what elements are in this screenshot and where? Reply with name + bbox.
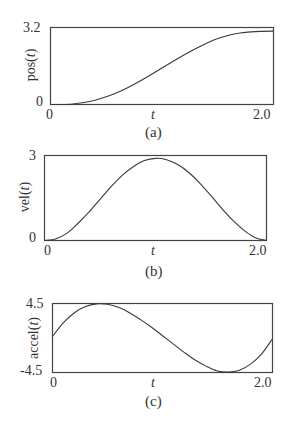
x-min-label-c: 0	[50, 376, 57, 390]
y-label-close: )	[26, 317, 41, 322]
y-min-label-a: 0	[36, 95, 43, 109]
y-label-var: t	[26, 322, 41, 326]
x-axis-label-b: t	[151, 244, 155, 258]
y-max-label-a: 3.2	[23, 21, 41, 35]
y-label-var: t	[23, 53, 38, 57]
y-label-var: t	[17, 187, 32, 191]
pos-curve	[51, 31, 274, 104]
x-min-label-a: 0	[46, 108, 53, 122]
caption-c: (c)	[145, 394, 162, 409]
y-label-close: )	[17, 182, 32, 187]
x-axis-label-a: t	[151, 108, 155, 122]
x-min-label-b: 0	[44, 244, 51, 258]
x-max-label-c: 2.0	[254, 376, 272, 390]
y-axis-label-b: vel(t)	[0, 190, 50, 204]
vel-curve	[45, 158, 267, 240]
y-axis-label-a: pos(t)	[6, 58, 56, 72]
caption-a: (a)	[145, 125, 162, 140]
x-axis-label-c: t	[151, 376, 155, 390]
y-axis-label-c: accel(t)	[4, 331, 64, 345]
y-label-close: )	[23, 49, 38, 54]
plot-frame-a	[51, 28, 274, 105]
caption-b: (b)	[145, 264, 163, 279]
y-min-label-b: 0	[29, 231, 36, 245]
y-max-label-b: 3	[29, 149, 36, 163]
y-label-text: vel(	[17, 190, 32, 212]
y-label-text: pos(	[23, 57, 38, 81]
x-max-label-b: 2.0	[249, 244, 267, 258]
x-max-label-a: 2.0	[253, 108, 271, 122]
plot-frame-b	[45, 156, 267, 241]
y-label-text: accel(	[26, 326, 41, 359]
plot-frame-c	[53, 304, 273, 373]
accel-curve	[53, 304, 273, 372]
